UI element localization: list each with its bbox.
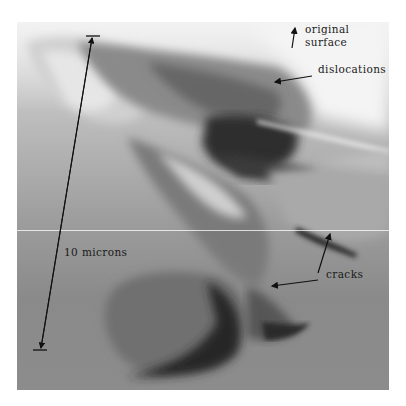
scale-bar <box>33 36 100 350</box>
original-surface-arrow <box>292 28 295 48</box>
cracks-arrow-lower <box>272 280 318 286</box>
cracks-label: cracks <box>326 268 363 281</box>
scale-bar-label: 10 microns <box>64 246 127 259</box>
original-surface-label: original surface <box>305 23 349 49</box>
original-surface-line2: surface <box>305 36 349 49</box>
original-surface-line1: original <box>305 23 349 36</box>
annotation-overlay <box>0 0 406 406</box>
figure-page: original surface dislocations cracks 10 … <box>0 0 406 406</box>
dislocations-label: dislocations <box>318 63 386 76</box>
dislocations-arrow <box>275 76 312 82</box>
